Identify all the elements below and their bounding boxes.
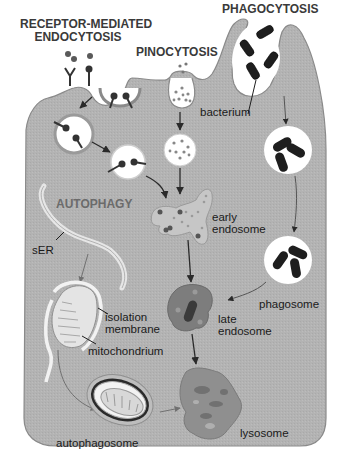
receptor-mediated-endocytosis-header: RECEPTOR-MEDIATED ENDOCYTOSIS	[20, 18, 136, 44]
receptor-mediated-line2: ENDOCYTOSIS	[20, 31, 136, 44]
pinocytosis-header: PINOCYTOSIS	[136, 46, 218, 59]
mitochondrium-label: mitochondrium	[88, 345, 163, 357]
phagosome-label: phagosome	[259, 298, 319, 310]
early-endosome-label: early endosome	[212, 211, 266, 235]
ser-label: sER	[32, 244, 54, 256]
autophagosome-label: autophagosome	[56, 437, 138, 449]
diagram-graphics	[0, 0, 350, 450]
lysosome-label: lysosome	[240, 427, 289, 439]
autophagy-header: AUTOPHAGY	[56, 197, 132, 211]
bacterium-label: bacterium	[200, 106, 251, 118]
phagocytosis-header: PHAGOCYTOSIS	[222, 3, 318, 16]
isolation-membrane-label: isolation membrane	[105, 311, 160, 335]
late-endosome-label: late endosome	[218, 313, 272, 337]
endocytosis-diagram: RECEPTOR-MEDIATED ENDOCYTOSIS PINOCYTOSI…	[0, 0, 350, 450]
